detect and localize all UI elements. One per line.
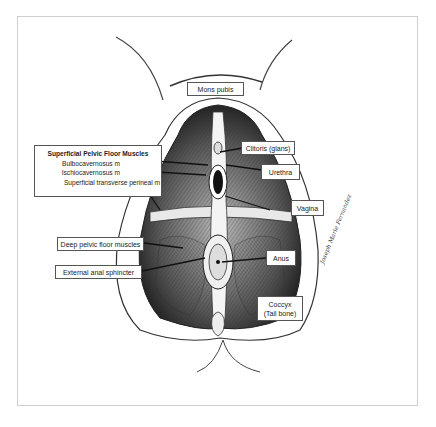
anus-point bbox=[216, 260, 220, 264]
label-urethra: Urethra bbox=[261, 164, 300, 180]
vaginal-opening bbox=[213, 170, 223, 194]
label-clitoris: Clitoris (glans) bbox=[241, 141, 295, 155]
label-superficial-transverse-perineal: Superficial transverse perineal m bbox=[35, 178, 160, 188]
label-coccyx: Coccyx (Tail bone) bbox=[257, 296, 303, 321]
coccyx-shape bbox=[212, 312, 225, 336]
label-external-anal-sphincter: External anal sphincter bbox=[55, 265, 142, 279]
label-coccyx-line2: (Tail bone) bbox=[264, 309, 297, 318]
label-bulbocavernosus: Bulbocavernosus m bbox=[35, 159, 156, 169]
label-anus: Anus bbox=[266, 250, 296, 266]
label-coccyx-line1: Coccyx bbox=[269, 300, 292, 309]
superficial-muscles-group: Superficial Pelvic Floor Muscles Bulboca… bbox=[34, 145, 162, 197]
perineum-illustration bbox=[0, 0, 436, 427]
label-deep-pelvic-floor-muscles: Deep pelvic floor muscles bbox=[57, 237, 144, 251]
superficial-muscles-title: Superficial Pelvic Floor Muscles bbox=[35, 149, 156, 159]
left-thigh-line bbox=[116, 37, 163, 100]
right-thigh-line bbox=[260, 40, 292, 90]
gluteal-cleft bbox=[197, 340, 260, 372]
label-mons-pubis: Mons pubis bbox=[187, 82, 244, 96]
label-vagina: Vagina bbox=[291, 200, 324, 216]
label-ischiocavernosus: Ischiocavernosus m bbox=[35, 168, 156, 178]
